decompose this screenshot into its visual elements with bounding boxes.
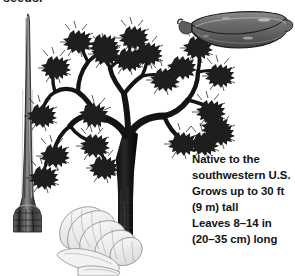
info-line-4: (9 m) tall bbox=[192, 199, 295, 215]
info-text-block: Native to the southwestern U.S. Grows up… bbox=[192, 151, 295, 248]
info-line-6: (20–35 cm) long bbox=[192, 231, 295, 247]
botanical-figure: seeds. bbox=[0, 0, 295, 276]
info-line-1: Native to the bbox=[192, 151, 295, 167]
info-line-3: Grows up to 30 ft bbox=[192, 183, 295, 199]
info-line-5: Leaves 8–14 in bbox=[192, 215, 295, 231]
info-line-2: southwestern U.S. bbox=[192, 167, 295, 183]
